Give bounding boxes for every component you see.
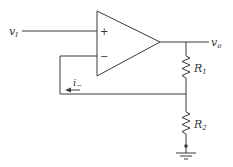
output-label: vo <box>211 36 221 50</box>
ground-node-dot <box>184 144 188 148</box>
r1-label: R1 <box>193 62 207 76</box>
input-label: vI <box>9 25 18 39</box>
r2-resistor <box>182 112 190 134</box>
current-arrow-icon <box>65 88 71 93</box>
r1-resistor <box>182 56 190 78</box>
minus-sign: − <box>100 51 108 62</box>
plus-sign: + <box>100 26 108 37</box>
current-label: i− <box>73 77 82 90</box>
circuit-diagram: + − vI vo R1 R2 i− <box>0 0 233 167</box>
opamp-symbol <box>97 11 160 76</box>
r2-label: R2 <box>193 118 207 132</box>
